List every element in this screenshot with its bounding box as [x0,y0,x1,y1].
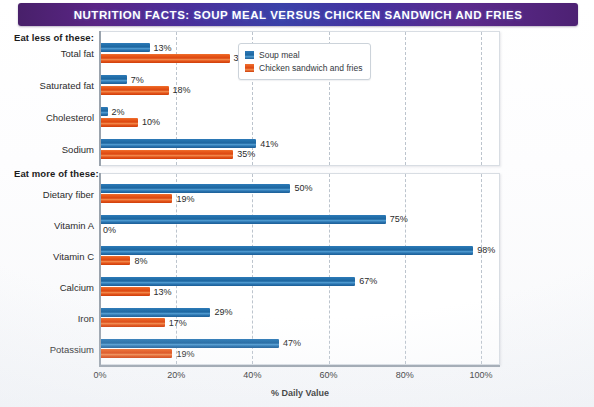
x-tick-60: 60% [320,370,338,380]
bar-sodium-chicken-sandwich-and-fries: 35% [100,150,233,159]
legend-item-chicken-sandwich-and-fries: Chicken sandwich and fries [245,62,362,74]
category-label-cholesterol: Cholesterol [46,112,94,123]
bar-saturated-fat-soup-meal: 7% [100,75,127,84]
bar-value-cholesterol-chicken-sandwich-and-fries: 10% [142,117,160,127]
section-label-eat-more: Eat more of these: [14,168,99,179]
bar-calcium-chicken-sandwich-and-fries: 13% [100,287,150,296]
category-label-sodium: Sodium [62,144,94,155]
bar-dietary-fiber-soup-meal: 50% [100,184,290,193]
bar-cholesterol-chicken-sandwich-and-fries: 10% [100,118,138,127]
legend-item-soup-meal: Soup meal [245,49,362,61]
bar-calcium-soup-meal: 67% [100,277,355,286]
bar-group-cholesterol: Cholesterol2%10% [100,101,499,133]
bar-group-vitamin-c: Vitamin C98%8% [100,240,499,271]
bar-total-fat-soup-meal: 13% [100,43,150,52]
title-banner: NUTRITION FACTS: SOUP MEAL VERSUS CHICKE… [18,3,578,26]
bar-dietary-fiber-chicken-sandwich-and-fries: 19% [100,194,172,203]
x-tick-0: 0% [93,370,106,380]
bar-value-iron-chicken-sandwich-and-fries: 17% [169,318,187,328]
x-tick-100: 100% [469,370,492,380]
category-label-saturated-fat: Saturated fat [40,80,94,91]
bar-value-calcium-soup-meal: 67% [359,276,377,286]
category-label-iron: Iron [78,312,94,323]
x-tick-40: 40% [243,370,261,380]
bar-saturated-fat-chicken-sandwich-and-fries: 18% [100,86,169,95]
bar-value-sodium-chicken-sandwich-and-fries: 35% [237,149,255,159]
legend-swatch-icon-soup-meal [245,51,254,59]
bar-vitamin-c-soup-meal: 98% [100,246,473,255]
bar-value-dietary-fiber-chicken-sandwich-and-fries: 19% [176,194,194,204]
legend-swatch-icon-chicken-sandwich-and-fries [245,64,254,72]
category-label-potassium: Potassium [50,343,94,354]
bar-group-calcium: Calcium67%13% [100,271,499,302]
legend-label-chicken-sandwich-and-fries: Chicken sandwich and fries [259,62,362,74]
bar-value-calcium-chicken-sandwich-and-fries: 13% [154,287,172,297]
bar-vitamin-c-chicken-sandwich-and-fries: 8% [100,256,130,265]
bar-iron-chicken-sandwich-and-fries: 17% [100,318,165,327]
bar-group-dietary-fiber: Dietary fiber50%19% [100,178,499,209]
nutrition-facts-chart-page: NUTRITION FACTS: SOUP MEAL VERSUS CHICKE… [0,0,594,407]
bar-value-potassium-chicken-sandwich-and-fries: 19% [176,349,194,359]
bar-potassium-soup-meal: 47% [100,339,279,348]
bar-value-potassium-soup-meal: 47% [283,338,301,348]
bar-value-saturated-fat-soup-meal: 7% [131,75,144,85]
bar-value-saturated-fat-chicken-sandwich-and-fries: 18% [173,85,191,95]
category-label-vitamin-a: Vitamin A [54,219,94,230]
section-label-eat-less: Eat less of these: [14,32,94,43]
bar-value-iron-soup-meal: 29% [214,307,232,317]
bar-group-sodium: Sodium41%35% [100,133,499,165]
category-label-total-fat: Total fat [61,48,94,59]
bar-group-vitamin-a: Vitamin A75%0%0% [100,209,499,240]
bar-value-sodium-soup-meal: 41% [260,139,278,149]
category-label-dietary-fiber: Dietary fiber [43,188,94,199]
x-axis-line [99,365,500,367]
x-axis-title: % Daily Value [100,388,500,398]
x-tick-80: 80% [396,370,414,380]
bar-group-iron: Iron29%17% [100,302,499,333]
y-axis-line-eat-more [99,173,101,365]
bar-potassium-chicken-sandwich-and-fries: 19% [100,349,172,358]
bar-value-vitamin-a-chicken-sandwich-and-fries: 0% [103,225,116,235]
category-label-calcium: Calcium [60,281,94,292]
category-label-vitamin-c: Vitamin C [53,250,94,261]
bar-sodium-soup-meal: 41% [100,139,256,148]
bar-value-vitamin-c-soup-meal: 98% [477,245,495,255]
bar-value-cholesterol-soup-meal: 2% [112,107,125,117]
chart-panel-eat-more: Dietary fiber50%19%Vitamin A75%0%0%Vitam… [100,173,500,365]
bar-iron-soup-meal: 29% [100,308,210,317]
chart-legend: Soup meal Chicken sandwich and fries [238,43,371,80]
bar-total-fat-chicken-sandwich-and-fries: 34% [100,54,230,63]
x-tick-20: 20% [167,370,185,380]
bar-value-vitamin-c-chicken-sandwich-and-fries: 8% [134,256,147,266]
bar-vitamin-a-soup-meal: 75% [100,215,386,224]
y-axis-line-eat-less [99,31,101,166]
bar-value-dietary-fiber-soup-meal: 50% [294,183,312,193]
bar-group-potassium: Potassium47%19% [100,333,499,364]
bar-value-vitamin-a-soup-meal: 75% [390,214,408,224]
bar-rows-eat-more: Dietary fiber50%19%Vitamin A75%0%0%Vitam… [100,174,499,364]
bar-cholesterol-soup-meal: 2% [100,107,108,116]
bar-value-total-fat-soup-meal: 13% [154,43,172,53]
page-title: NUTRITION FACTS: SOUP MEAL VERSUS CHICKE… [74,9,523,21]
legend-label-soup-meal: Soup meal [259,49,300,61]
